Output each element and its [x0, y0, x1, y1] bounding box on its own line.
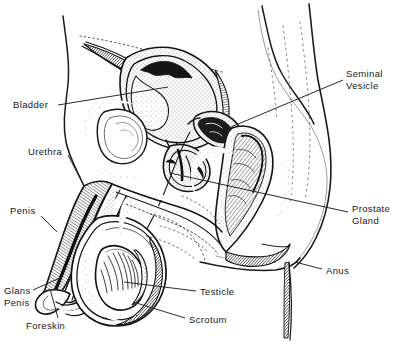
label-prostate-gland-line-1: Prostate	[352, 203, 390, 215]
label-foreskin-line-1: Foreskin	[26, 320, 65, 332]
leader-line-anus	[295, 262, 322, 269]
label-urethra-line-1: Urethra	[28, 146, 62, 158]
rectum-anal-canal	[215, 126, 290, 266]
anatomy-figure	[0, 0, 398, 345]
anatomy-diagram-page: BladderUrethraPenisGlansPenisForeskinSem…	[0, 0, 398, 345]
testicle-organ	[96, 246, 148, 310]
buttock-contour	[258, 4, 331, 268]
label-bladder: Bladder	[13, 99, 48, 111]
label-seminal-vesicle: SeminalVesicle	[346, 68, 383, 91]
label-testicle-line-1: Testicle	[200, 286, 234, 298]
label-scrotum-line-1: Scrotum	[189, 314, 227, 326]
label-seminal-vesicle-line-2: Vesicle	[346, 80, 383, 92]
leader-line-urethra	[68, 155, 84, 186]
label-prostate-gland-line-2: Gland	[352, 215, 390, 227]
label-seminal-vesicle-line-1: Seminal	[346, 68, 383, 80]
label-foreskin: Foreskin	[26, 320, 65, 332]
label-urethra: Urethra	[28, 146, 62, 158]
leader-line-penis	[41, 216, 57, 232]
label-scrotum: Scrotum	[189, 314, 227, 326]
label-prostate-gland: ProstateGland	[352, 203, 390, 226]
gluteal-cleft	[284, 262, 291, 340]
label-anus-line-1: Anus	[326, 265, 349, 277]
label-glans-penis-line-2: Penis	[4, 297, 31, 309]
label-glans-penis-line-1: Glans	[4, 285, 31, 297]
label-bladder-line-1: Bladder	[13, 99, 48, 111]
label-penis-line-1: Penis	[10, 205, 36, 217]
label-penis: Penis	[10, 205, 36, 217]
label-glans-penis: GlansPenis	[4, 285, 31, 308]
label-testicle: Testicle	[200, 286, 234, 298]
label-anus: Anus	[326, 265, 349, 277]
